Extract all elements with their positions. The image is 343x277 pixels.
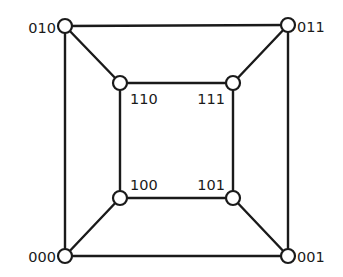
node-010 [58,19,72,33]
node-101 [226,191,240,205]
node-label-011: 011 [297,19,325,35]
edge-010-110 [65,26,120,83]
node-label-101: 101 [197,177,225,193]
label-layer: 010011110111100101000001 [28,19,324,265]
node-001 [281,249,295,263]
edge-010-011 [65,25,288,26]
node-label-010: 010 [28,20,56,36]
edge-011-111 [233,25,288,83]
node-label-000: 000 [28,249,56,265]
edge-000-100 [65,198,120,256]
node-label-100: 100 [130,177,158,193]
edge-layer [65,25,288,256]
node-011 [281,18,295,32]
hypercube-diagram: 010011110111100101000001 [0,0,343,277]
node-000 [58,249,72,263]
graph-canvas: 010011110111100101000001 [0,0,343,277]
node-110 [113,76,127,90]
node-111 [226,76,240,90]
node-label-001: 001 [297,249,325,265]
node-100 [113,191,127,205]
edge-001-101 [233,198,288,256]
node-label-110: 110 [130,91,158,107]
node-label-111: 111 [197,91,225,107]
